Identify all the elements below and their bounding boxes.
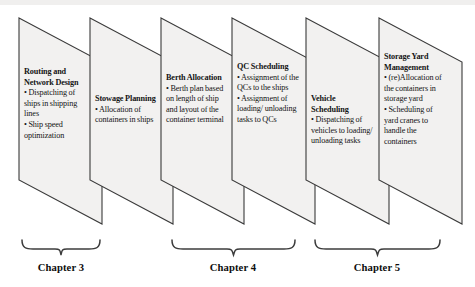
panel-item-routing-2: • Ship speed optimization <box>24 120 87 141</box>
chapter-label-chapter-5: Chapter 5 <box>337 262 417 273</box>
panel-item-storage-2: • Scheduling of yard cranes to handle th… <box>384 105 447 147</box>
panel-text-routing-and-network-design: Routing and Network Design • Dispatching… <box>24 67 87 141</box>
chapter-label-chapter-4: Chapter 4 <box>193 262 273 273</box>
panel-text-vehicle-scheduling: Vehicle Scheduling • Dispatching of vehi… <box>311 94 374 147</box>
panel-text-berth-allocation: Berth Allocation • Berth plan based on l… <box>166 73 229 126</box>
diagram-canvas: Routing and Network Design • Dispatching… <box>0 0 475 287</box>
panel-item-storage-1: • (re)Allocation of the containers in st… <box>384 73 447 105</box>
chapter-label-chapter-3: Chapter 3 <box>21 262 101 273</box>
panel-title-vehicle-scheduling: Vehicle Scheduling <box>311 94 374 115</box>
panel-item-routing-1: • Dispatching of ships in shipping lines <box>24 88 87 120</box>
panel-item-berth-1: • Berth plan based on length of ship and… <box>166 84 229 126</box>
panel-item-vehicle-1: • Dispatching of vehicles to loading/ un… <box>311 115 374 147</box>
panel-title-routing-and-network-design: Routing and Network Design <box>24 67 87 88</box>
panel-text-storage-yard-management: Storage Yard Management • (re)Allocation… <box>384 52 447 147</box>
panel-title-qc-scheduling: QC Scheduling <box>237 62 300 73</box>
panel-item-qc-2: • Assignment of loading/ unloading tasks… <box>237 94 300 126</box>
panel-title-storage-yard-management: Storage Yard Management <box>384 52 447 73</box>
panel-text-qc-scheduling: QC Scheduling • Assignment of the QCs to… <box>237 62 300 126</box>
panel-text-stowage-planning: Stowage Planning • Allocation of contain… <box>95 94 158 126</box>
panel-title-stowage-planning: Stowage Planning <box>95 94 158 105</box>
panel-item-qc-1: • Assignment of the QCs to the ships <box>237 73 300 94</box>
panel-item-stowage-1: • Allocation of containers in ships <box>95 105 158 126</box>
panel-title-berth-allocation: Berth Allocation <box>166 73 229 84</box>
